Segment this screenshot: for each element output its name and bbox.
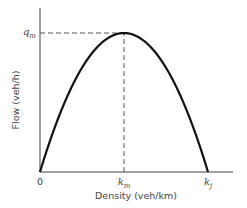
x-tick-label-kj: kj xyxy=(204,176,213,190)
y-tick-label-qm: qm xyxy=(23,26,36,40)
y-axis-label: Flow (veh/h) xyxy=(10,71,21,130)
x-axis-label: Density (veh/km) xyxy=(95,190,177,201)
flow-density-chart: 0 km kj qm Density (veh/km) Flow (veh/h) xyxy=(0,0,247,208)
x-tick-label-km: km xyxy=(118,176,131,190)
x-tick-label-origin: 0 xyxy=(37,176,43,187)
